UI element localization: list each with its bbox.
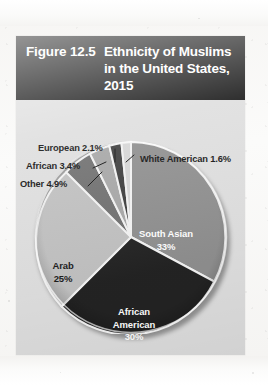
figure-title-line-1: Ethnicity of Muslims — [104, 43, 241, 60]
slice-label-african-american: African American 30% — [94, 306, 174, 344]
pie-chart: European 2.1% African 3.4% Other 4.9% Wh… — [16, 100, 245, 355]
figure-panel: Figure 12.5 Ethnicity of Muslims in the … — [16, 36, 245, 355]
slice-label-african-american-pct: 30% — [94, 331, 174, 344]
callout-white-american: White American 1.6% — [140, 154, 231, 164]
scan-speck — [198, 18, 200, 19]
slice-label-african-american-name-2: American — [94, 319, 174, 332]
scan-edge-top — [0, 0, 268, 26]
slice-label-arab-name: Arab — [52, 260, 73, 271]
figure-title: Ethnicity of Muslims in the United State… — [104, 43, 245, 94]
figure-title-line-2: in the United States, — [104, 60, 241, 77]
slice-label-south-asian-name: South Asian — [139, 228, 193, 239]
slice-label-arab-pct: 25% — [32, 273, 94, 286]
callout-other: Other 4.9% — [20, 179, 67, 189]
scan-speck — [60, 372, 61, 373]
callout-european: European 2.1% — [38, 143, 103, 153]
callout-african: African 3.4% — [26, 161, 80, 171]
slice-label-south-asian: South Asian 33% — [124, 228, 208, 253]
figure-title-bar: Figure 12.5 Ethnicity of Muslims in the … — [16, 36, 245, 100]
scan-speck — [252, 372, 254, 374]
scan-speck — [8, 300, 10, 302]
slice-label-south-asian-pct: 33% — [124, 241, 208, 254]
figure-page: Figure 12.5 Ethnicity of Muslims in the … — [0, 0, 268, 385]
figure-number-label: Figure 12.5 — [16, 43, 104, 60]
scan-edge-bottom — [0, 356, 268, 385]
slice-label-african-american-name-1: African — [118, 306, 150, 317]
figure-title-line-3: 2015 — [104, 77, 241, 94]
slice-label-arab: Arab 25% — [32, 260, 94, 285]
